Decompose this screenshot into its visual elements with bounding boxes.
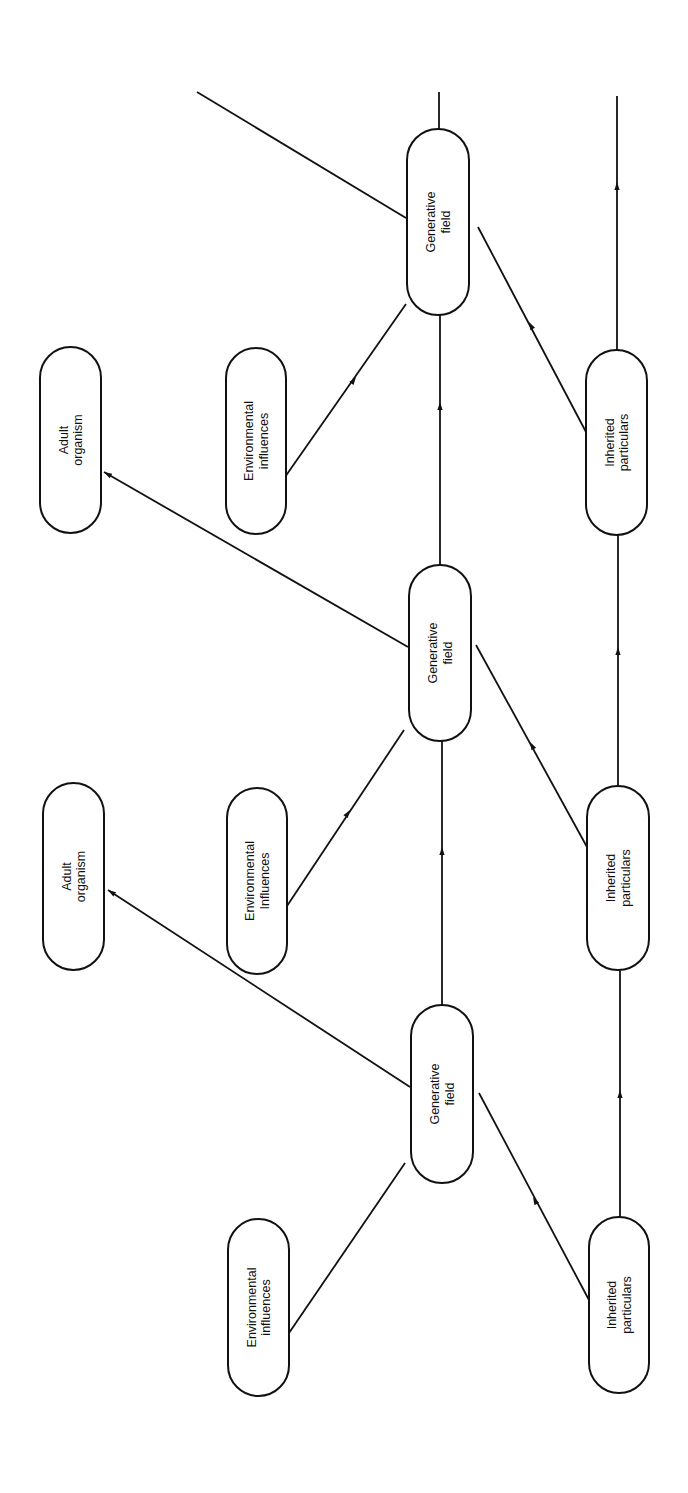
label-line: influences	[257, 413, 271, 469]
node-inherited-particulars: Inheritedparticulars	[586, 350, 647, 535]
arrowhead-icon	[530, 742, 536, 750]
connector-line	[285, 304, 406, 477]
label-line: field	[439, 210, 453, 233]
node-generative-field: Generativefield	[407, 129, 469, 315]
edge-env1-to-gf1	[285, 304, 406, 477]
node-generative-field: Generativefield	[411, 1005, 473, 1183]
node-label: EnvironmentalInfluences	[243, 841, 272, 921]
edge-env3-to-gf3	[289, 1163, 405, 1333]
edge-inh1-to-top-offpage	[614, 96, 619, 350]
label-line: Generative	[424, 191, 438, 252]
connector-line	[478, 227, 586, 432]
node-generative-field: Generativefield	[409, 565, 471, 741]
edge-inh2-to-gf2	[476, 645, 587, 847]
edge-inh2-to-inh1	[615, 535, 620, 786]
nodes-layer: GenerativefieldGenerativefieldGenerative…	[40, 129, 649, 1396]
connector-line	[287, 730, 404, 906]
generative-field-diagram: GenerativefieldGenerativefieldGenerative…	[0, 0, 688, 1493]
edge-gf2-to-gf1	[437, 315, 442, 565]
connector-line	[289, 1163, 405, 1333]
label-line: particulars	[617, 414, 631, 472]
edge-gf3-to-gf2	[439, 741, 444, 1005]
node-label: Inheritedparticulars	[605, 1276, 634, 1334]
node-label: Inheritedparticulars	[604, 849, 633, 907]
label-line: Inherited	[604, 854, 618, 903]
label-line: Adult	[57, 425, 71, 454]
arrowhead-icon	[614, 182, 619, 190]
edges-layer	[104, 92, 623, 1333]
label-line: Generative	[426, 622, 440, 683]
diagram-canvas: GenerativefieldGenerativefieldGenerative…	[0, 0, 688, 1493]
node-label: Environmentalinfluences	[242, 401, 271, 481]
node-adult-organism: Adultorganism	[43, 783, 104, 970]
label-line: particulars	[619, 849, 633, 907]
label-line: organism	[74, 851, 88, 902]
node-environmental-influences: EnvironmentalInfluences	[227, 788, 287, 974]
label-line: influences	[259, 1279, 273, 1335]
label-line: Environmental	[242, 401, 256, 481]
edge-top-offpage-to-gf1	[197, 92, 406, 218]
label-line: organism	[71, 414, 85, 465]
label-line: Environmental	[245, 1268, 259, 1348]
connector-line	[197, 92, 406, 218]
edge-inh3-to-inh2	[617, 970, 622, 1217]
edge-inh3-to-gf3	[479, 1093, 589, 1300]
label-line: Influences	[258, 853, 272, 910]
node-label: Inheritedparticulars	[603, 414, 632, 472]
arrowhead-icon	[617, 1090, 622, 1098]
node-environmental-influences: Environmentalinfluences	[228, 1219, 289, 1396]
arrowhead-icon	[529, 322, 535, 330]
connector-line	[479, 1093, 589, 1300]
arrowhead-icon	[615, 647, 620, 655]
label-line: Inherited	[605, 1281, 619, 1330]
node-environmental-influences: Environmentalinfluences	[226, 348, 286, 534]
arrowhead-icon	[437, 402, 442, 410]
node-inherited-particulars: Inheritedparticulars	[589, 1217, 649, 1393]
node-inherited-particulars: Inheritedparticulars	[587, 786, 649, 970]
label-line: Adult	[60, 862, 74, 891]
label-line: Inherited	[603, 418, 617, 467]
arrowhead-icon	[104, 472, 112, 478]
label-line: field	[443, 1082, 457, 1105]
label-line: Generative	[428, 1063, 442, 1124]
label-line: Environmental	[243, 841, 257, 921]
arrowhead-icon	[439, 847, 444, 855]
edge-env2-to-gf2	[287, 730, 404, 906]
label-line: particulars	[620, 1276, 634, 1334]
edge-inh1-to-gf1	[478, 227, 586, 432]
node-label: Environmentalinfluences	[245, 1268, 274, 1348]
node-adult-organism: Adultorganism	[40, 347, 101, 533]
label-line: field	[441, 641, 455, 664]
